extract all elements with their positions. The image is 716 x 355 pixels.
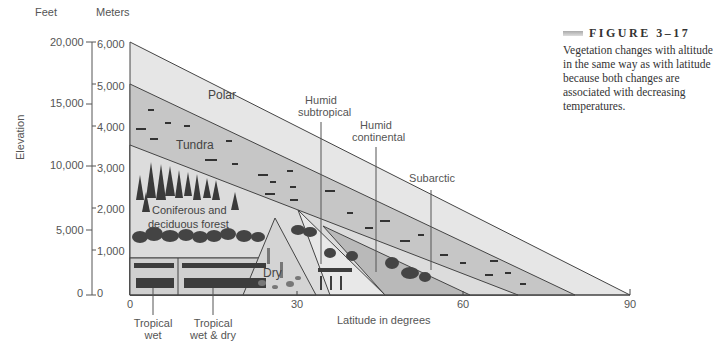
annotation-line: subtropical: [298, 106, 344, 118]
zone-label-forest-line1: Coniferous and: [152, 204, 227, 216]
x-tick: 0: [127, 298, 133, 310]
zone-label-dry: Dry: [263, 266, 282, 280]
annotation-line: Tropical: [186, 317, 240, 329]
figure-number: FIGURE 3–17: [589, 26, 690, 41]
caption-text: Vegetation changes with altitude in the …: [563, 43, 713, 113]
annotation-line: Humid: [298, 94, 344, 106]
annotation-line: Humid: [352, 119, 400, 131]
annotation-tropical-wet: Tropical wet: [128, 317, 178, 341]
figure-label: FIGURE 3–17: [563, 26, 713, 41]
figure-marker-icon: [563, 31, 583, 36]
zone-label-tundra: Tundra: [176, 138, 214, 152]
annotation-tropical-wet-dry: Tropical wet & dry: [186, 317, 240, 341]
x-tick: 30: [291, 298, 303, 310]
annotation-humid-subtropical: Humid subtropical: [298, 94, 344, 118]
annotation-line: Tropical: [128, 317, 178, 329]
zone-label-polar: Polar: [208, 88, 236, 102]
zone-label-forest-line2: deciduous forest: [148, 218, 229, 230]
x-tick: 60: [457, 298, 469, 310]
annotation-subarctic: Subarctic: [408, 172, 456, 184]
figure-caption: FIGURE 3–17 Vegetation changes with alti…: [563, 26, 713, 113]
annotation-line: wet & dry: [186, 329, 240, 341]
x-axis-label: Latitude in degrees: [337, 314, 431, 326]
annotation-humid-continental: Humid continental: [352, 119, 400, 143]
x-tick: 90: [624, 298, 636, 310]
annotation-line: continental: [352, 131, 400, 143]
annotation-line: wet: [128, 329, 178, 341]
